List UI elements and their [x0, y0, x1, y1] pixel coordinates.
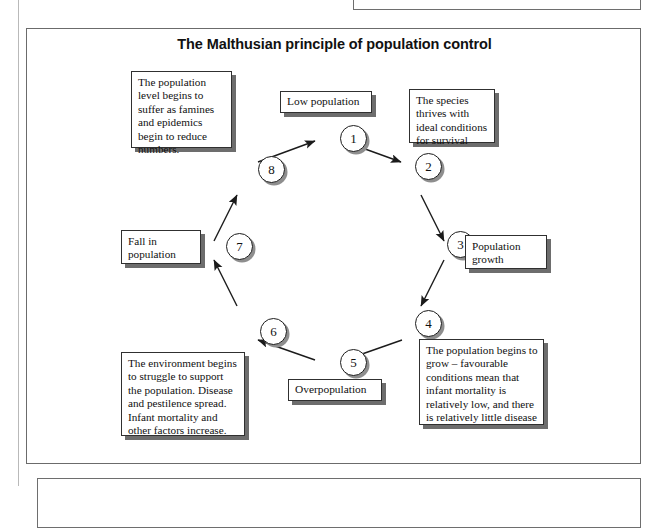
partial-box-below-figure	[37, 478, 641, 528]
cycle-diagram: 1 2 3 4 5 6 7 8 The population level beg…	[27, 29, 640, 463]
label-box-node-8[interactable]: The population level begins to suffer as…	[131, 71, 232, 148]
label-box-node-6[interactable]: The environment begins to struggle to su…	[121, 352, 245, 436]
cycle-node-3-number: 3	[457, 237, 464, 253]
label-box-node-4[interactable]: The population begins to grow – favourab…	[419, 339, 544, 425]
label-box-node-3-text: Population growth	[472, 240, 520, 265]
label-box-node-6-text: The environment begins to struggle to su…	[128, 357, 237, 436]
cycle-node-1-number: 1	[350, 131, 357, 147]
page-edge-line	[18, 0, 19, 486]
label-box-node-8-text: The population level begins to suffer as…	[138, 76, 214, 155]
label-box-node-5-text: Overpopulation	[295, 383, 367, 397]
cycle-node-1[interactable]: 1	[340, 125, 367, 152]
cycle-node-7[interactable]: 7	[226, 233, 253, 260]
cycle-node-8-number: 8	[268, 162, 275, 178]
partial-box-above-figure	[353, 0, 641, 10]
cycle-node-4[interactable]: 4	[415, 310, 442, 337]
label-box-node-1-text: Low population	[287, 95, 359, 109]
label-box-node-1[interactable]: Low population	[280, 91, 372, 113]
label-box-node-5[interactable]: Overpopulation	[288, 379, 382, 401]
cycle-node-7-number: 7	[236, 239, 243, 255]
cycle-node-2-number: 2	[425, 159, 432, 175]
label-box-node-7[interactable]: Fall in population	[121, 230, 201, 264]
cycle-node-5-number: 5	[350, 355, 357, 371]
figure-frame: The Malthusian principle of population c…	[26, 28, 641, 464]
cycle-node-2[interactable]: 2	[415, 153, 442, 180]
label-box-node-2-text: The species thrives with ideal condition…	[416, 94, 487, 146]
label-box-node-2[interactable]: The species thrives with ideal condition…	[409, 89, 495, 143]
cycle-node-5[interactable]: 5	[340, 349, 367, 376]
cycle-node-8[interactable]: 8	[258, 156, 285, 183]
cycle-node-6-number: 6	[270, 324, 277, 340]
cycle-node-4-number: 4	[425, 316, 432, 332]
label-box-node-7-text: Fall in population	[128, 235, 176, 260]
label-box-node-4-text: The population begins to grow – favourab…	[426, 344, 538, 423]
label-box-node-3[interactable]: Population growth	[465, 235, 547, 269]
cycle-node-6[interactable]: 6	[260, 318, 287, 345]
